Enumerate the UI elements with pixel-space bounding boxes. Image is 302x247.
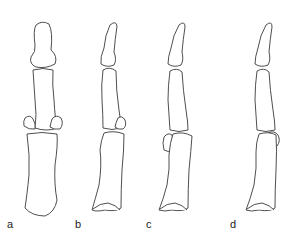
finger-bones-figure bbox=[0, 0, 302, 247]
proximal-phalanx-a bbox=[25, 133, 57, 217]
panel-c-drawing bbox=[159, 23, 192, 211]
panel-label-c: c bbox=[146, 219, 152, 230]
proximal-phalanx-b bbox=[92, 132, 124, 211]
distal-phalanx-d bbox=[255, 23, 272, 66]
panel-a-drawing bbox=[24, 22, 63, 216]
sesamoid-left-a bbox=[24, 116, 36, 129]
panel-label-b: b bbox=[75, 219, 81, 230]
proximal-phalanx-d bbox=[246, 133, 277, 211]
panel-label-a: a bbox=[7, 219, 13, 230]
distal-phalanx-c bbox=[168, 23, 185, 66]
middle-phalanx-c bbox=[168, 69, 188, 131]
panel-b-drawing bbox=[92, 23, 126, 211]
distal-phalanx-b bbox=[101, 23, 117, 67]
distal-phalanx-a bbox=[31, 22, 56, 67]
middle-phalanx-d bbox=[255, 69, 275, 131]
panel-d-drawing bbox=[246, 23, 279, 211]
panel-label-d: d bbox=[230, 219, 236, 230]
